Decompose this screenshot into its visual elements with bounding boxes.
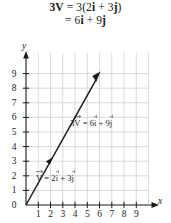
y-tick-label-4: 4	[8, 142, 20, 152]
x-tick-label-3: 3	[57, 209, 69, 219]
vector-3v-annotation: 3V = 6i + 9j	[70, 118, 112, 128]
vec-3v-symbol: V	[74, 118, 80, 128]
y-tick-label-2: 2	[8, 171, 20, 181]
x-tick-label-8: 8	[118, 209, 130, 219]
vec-3v-j: j	[110, 118, 112, 128]
x-axis-label: x	[158, 196, 162, 206]
equation-line-2-part-2: + 9	[84, 14, 102, 26]
x-tick-label-5: 5	[81, 209, 93, 219]
vector-v-annotation: V = 2i + 3j	[36, 173, 74, 183]
equation-line-2-part-3: j	[102, 14, 106, 26]
vec-v-symbol-overline: V	[36, 173, 42, 183]
equation-line-2: = 6i + 9j	[0, 14, 171, 27]
y-axis-arrowhead	[23, 51, 29, 59]
vec-3v-i: i	[94, 118, 96, 128]
y-tick-label-7: 7	[8, 98, 20, 108]
equation-line-1-part-2: = 3(2	[64, 1, 92, 13]
x-tick-label-7: 7	[106, 209, 118, 219]
equation-block: 3V = 3(2i + 3j) = 6i + 9j	[0, 1, 171, 27]
vec-3v-plus: + 9	[96, 118, 109, 128]
vec-3v-equals: = 6	[81, 118, 94, 128]
vec-v-j: j	[72, 173, 74, 183]
vector-plot-figure: y x 9 8 7 6 5 4 3 2 1 0 1 2 3 4 5 6 7 8 …	[0, 33, 171, 223]
vec-v-plus: + 3	[58, 173, 71, 183]
origin-label: 0	[8, 200, 20, 210]
y-tick-label-6: 6	[8, 112, 20, 122]
x-tick-label-9: 9	[130, 209, 142, 219]
plot-canvas	[0, 33, 171, 223]
y-tick-label-1: 1	[8, 185, 20, 195]
vec-v-j-overline: j	[72, 173, 74, 183]
vec-3v-symbol-overline: V	[74, 118, 80, 128]
vec-v-i: i	[56, 173, 58, 183]
equation-line-1: 3V = 3(2i + 3j)	[0, 1, 171, 14]
vec-3v-i-overline: i	[94, 118, 96, 128]
vec-v-symbol: V	[36, 173, 42, 183]
y-axis-label: y	[22, 41, 26, 51]
vec-v-equals: = 2	[42, 173, 55, 183]
x-tick-label-4: 4	[69, 209, 81, 219]
equation-line-2-part-0: = 6	[65, 14, 80, 26]
vector-3v	[26, 72, 101, 205]
x-tick-label-6: 6	[94, 209, 106, 219]
y-tick-label-8: 8	[8, 83, 20, 93]
vec-v-i-overline: i	[56, 173, 58, 183]
equation-line-1-part-1: V	[55, 1, 63, 13]
x-tick-label-1: 1	[32, 209, 44, 219]
x-tick-label-2: 2	[45, 209, 57, 219]
y-tick-label-9: 9	[8, 69, 20, 79]
vec-3v-j-overline: j	[110, 118, 112, 128]
equation-line-1-part-6: )	[118, 1, 122, 13]
y-tick-label-5: 5	[8, 127, 20, 137]
equation-line-1-part-4: + 3	[95, 1, 113, 13]
y-tick-label-3: 3	[8, 156, 20, 166]
